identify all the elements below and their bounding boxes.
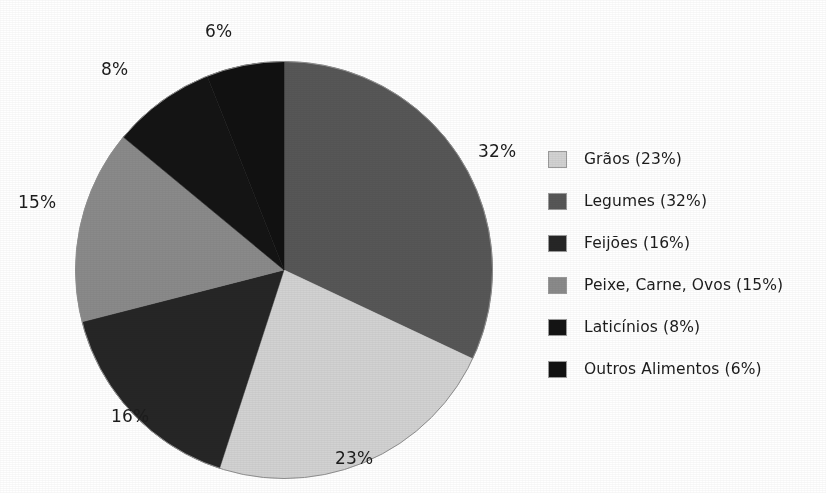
legend-swatch [548,193,567,210]
legend-item: Feijões (16%) [548,222,816,264]
pie-label-legumes: 32% [478,141,516,161]
legend-swatch [548,361,567,378]
pie-label-peixe: 15% [18,192,56,212]
legend-item-label: Peixe, Carne, Ovos (15%) [584,276,783,294]
pie-label-feijoes: 16% [111,406,149,426]
legend-item: Grãos (23%) [548,138,816,180]
pie-label-outros: 6% [205,21,232,41]
legend-item-label: Outros Alimentos (6%) [584,360,762,378]
legend-swatch [548,151,567,168]
legend-item: Legumes (32%) [548,180,816,222]
legend-item-label: Legumes (32%) [584,192,707,210]
pie-label-graos: 23% [335,448,373,468]
legend-swatch [548,319,567,336]
legend-swatch [548,277,567,294]
legend-item: Outros Alimentos (6%) [548,348,816,390]
chart-legend: Grãos (23%)Legumes (32%)Feijões (16%)Pei… [548,138,816,390]
legend-swatch [548,235,567,252]
legend-item-label: Grãos (23%) [584,150,682,168]
legend-item: Peixe, Carne, Ovos (15%) [548,264,816,306]
legend-item-label: Laticínios (8%) [584,318,700,336]
pie-label-laticinios: 8% [101,59,128,79]
legend-item-label: Feijões (16%) [584,234,690,252]
pie-chart-figure: 6% 8% 15% 16% 23% 32% Grãos (23%)Legumes… [0,0,826,493]
legend-item: Laticínios (8%) [548,306,816,348]
